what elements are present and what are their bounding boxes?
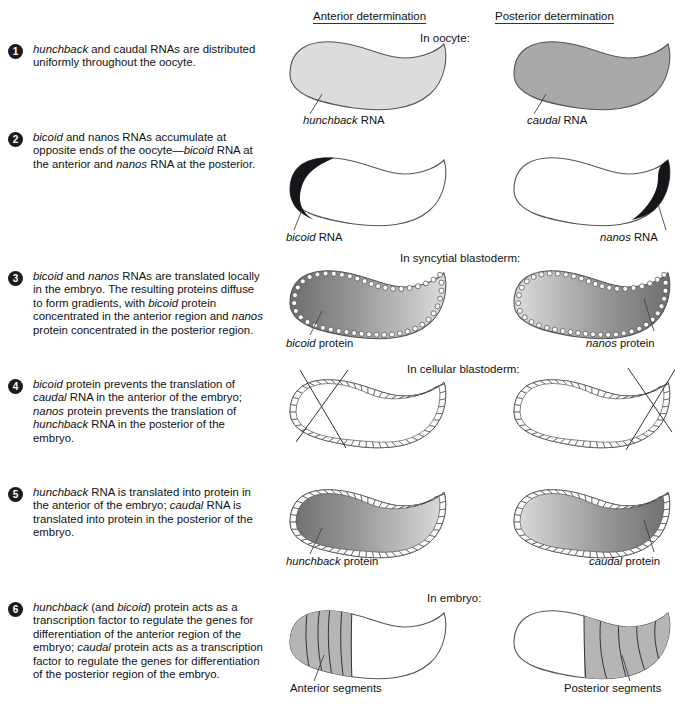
column-header-posterior: Posterior determination [495, 10, 614, 24]
diagram-row-6-posterior [510, 605, 675, 685]
step-3-text: bicoid and nanos RNAs are translated loc… [33, 270, 266, 337]
diagram-row-2-posterior [510, 152, 675, 230]
step-2-text: bicoid and nanos RNAs accumulate at oppo… [33, 131, 266, 171]
step-5-number: 5 [8, 487, 23, 502]
step-4: 4 bicoid protein prevents the translatio… [8, 378, 266, 445]
diagram-row-4-posterior [510, 374, 675, 454]
callout-bicoid-rna: bicoid RNA [286, 231, 343, 243]
diagram-row-1-anterior [286, 36, 451, 114]
stage-label-syncytial-blastoderm: In syncytial blastoderm: [400, 252, 520, 264]
posterior-segment-band [584, 605, 675, 685]
step-6: 6 hunchback (and bicoid) protein acts as… [8, 601, 266, 681]
callout-hunchback-rna: hunchback RNA [303, 114, 385, 126]
diagram-row-1-posterior [510, 36, 675, 114]
step-1: 1 hunchback and caudal RNAs are distribu… [8, 43, 266, 70]
step-1-text: hunchback and caudal RNAs are distribute… [33, 43, 266, 70]
syncytial-posterior-shape [514, 271, 670, 339]
anterior-segment-band [286, 605, 352, 685]
callout-caudal-protein: caudal protein [589, 555, 660, 567]
callout-anterior-segments: Anterior segments [290, 682, 382, 694]
stage-label-embryo: In embryo: [427, 592, 481, 604]
diagram-row-5-anterior [286, 484, 451, 562]
callout-line-bicoid-rna [294, 210, 302, 230]
diagram-row-6-anterior [286, 605, 451, 685]
diagram-row-5-posterior [510, 484, 675, 562]
step-3: 3 bicoid and nanos RNAs are translated l… [8, 270, 266, 337]
diagram-row-3-anterior [286, 265, 451, 343]
step-5-text: hunchback RNA is translated into protein… [33, 486, 266, 540]
callout-caudal-rna: caudal RNA [527, 114, 587, 126]
step-2: 2 bicoid and nanos RNAs accumulate at op… [8, 131, 266, 171]
callout-hunchback-protein: hunchback protein [286, 555, 378, 567]
callout-nanos-rna: nanos RNA [600, 231, 658, 243]
oocyte-posterior-outline [514, 158, 670, 226]
step-6-text: hunchback (and bicoid) protein acts as a… [33, 601, 266, 681]
column-header-anterior: Anterior determination [313, 10, 426, 24]
oocyte-posterior-shape [514, 42, 670, 110]
oocyte-anterior-shape [290, 42, 446, 110]
diagram-row-2-anterior [286, 152, 451, 230]
callout-nanos-protein: nanos protein [586, 337, 654, 349]
step-4-number: 4 [8, 379, 23, 394]
step-4-text: bicoid protein prevents the translation … [33, 378, 266, 445]
step-1-number: 1 [8, 44, 23, 59]
step-5: 5 hunchback RNA is translated into prote… [8, 486, 266, 540]
diagram-row-3-posterior [510, 265, 675, 343]
step-3-number: 3 [8, 271, 23, 286]
step-2-number: 2 [8, 132, 23, 147]
step-6-number: 6 [8, 602, 23, 617]
diagram-row-4-anterior [286, 374, 451, 454]
callout-bicoid-protein: bicoid protein [286, 337, 353, 349]
callout-posterior-segments: Posterior segments [564, 682, 661, 694]
callout-line-nanos-rna [658, 204, 666, 230]
